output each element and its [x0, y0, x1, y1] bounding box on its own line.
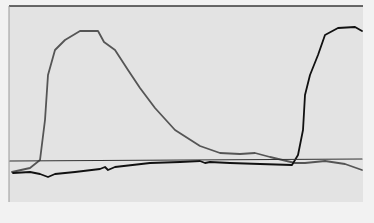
line-chart [0, 0, 374, 223]
chart-container [0, 0, 374, 223]
